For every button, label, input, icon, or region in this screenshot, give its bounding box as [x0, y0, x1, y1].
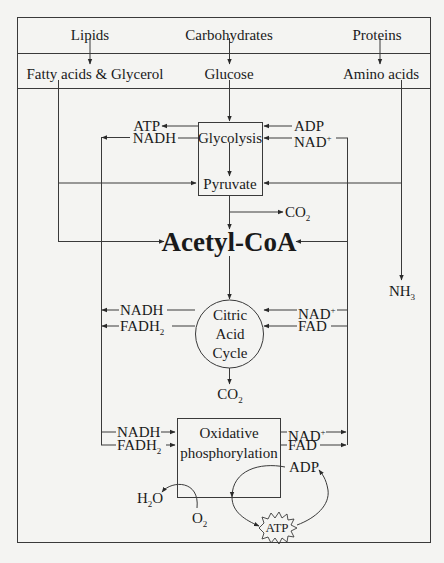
cac-fadh2-output: FADH2 — [120, 318, 164, 340]
citric-acid-cycle-label: Citric Acid Cycle — [213, 306, 248, 363]
outer-frame — [18, 18, 431, 543]
oxphos-atp: ATP — [265, 520, 288, 536]
diagram-lines — [0, 0, 444, 563]
source-lipids: Lipids — [71, 27, 109, 43]
cac-fad-input: FAD — [298, 318, 327, 334]
glycolysis-nadh-output: NADH — [133, 130, 176, 146]
monomer-amino-acids: Amino acids — [343, 66, 419, 82]
monomer-fatty-acids: Fatty acids & Glycerol — [26, 66, 163, 82]
glycolysis-label: Glycolysis — [198, 130, 262, 146]
monomer-glucose: Glucose — [204, 66, 253, 82]
oxidative-phosphorylation-label: Oxidative phosphorylation — [180, 423, 278, 463]
cac-nadh-output: NADH — [120, 302, 163, 318]
oxygen-o2: O2 — [192, 510, 207, 532]
source-carbohydrates: Carbohydrates — [185, 27, 272, 43]
water-h2o: H2O — [137, 490, 163, 512]
source-proteins: Proteins — [352, 27, 401, 43]
oxphos-fad-output: FAD — [288, 437, 317, 453]
oxphos-fadh2-input: FADH2 — [117, 437, 161, 459]
pyruvate-co2-output: CO2 — [285, 204, 310, 226]
acetyl-coa-label: Acetyl-CoA — [162, 228, 297, 256]
glycolysis-nad-input: NAD+ — [294, 130, 332, 150]
oxphos-adp: ADP — [289, 459, 319, 475]
cac-co2-output: CO2 — [217, 386, 242, 408]
pyruvate-label: Pyruvate — [203, 176, 256, 192]
nh3-output: NH3 — [389, 283, 415, 305]
